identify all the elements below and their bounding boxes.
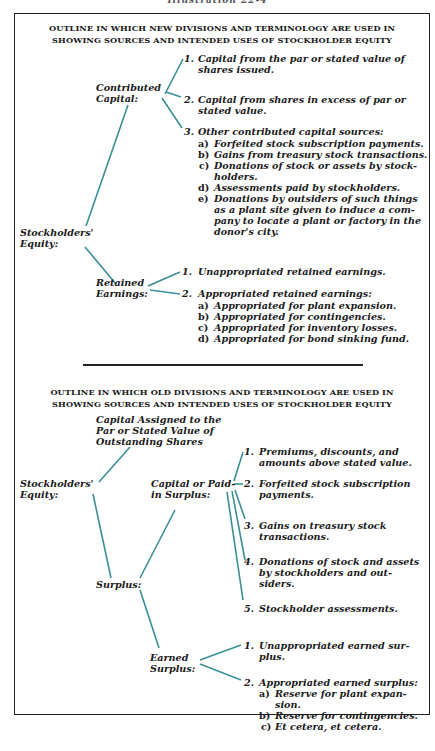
contributed-item3-number: 3. xyxy=(184,126,194,137)
capital-assigned-line2: Par or Stated Value of xyxy=(96,425,221,436)
new-root-line1: Stockholders' xyxy=(20,227,93,238)
contributed-sub-a-letter: a) xyxy=(198,138,209,149)
new-outline-title: OUTLINE IN WHICH NEW DIVISIONS AND TERMI… xyxy=(14,22,430,46)
paid-in-item5: Stockholder assessments. xyxy=(259,603,398,614)
paid-in-surplus-label: Capital or Paid- in Surplus: xyxy=(151,478,235,500)
capital-assigned-line3: Outstanding Shares xyxy=(96,436,221,447)
earned-item1-number: 1. xyxy=(244,640,254,651)
paid-in-item3-line2: transactions. xyxy=(259,531,386,542)
old-root-line2: Equity: xyxy=(20,489,93,500)
earned-sub-a: Reserve for plant expan- sion. xyxy=(275,688,407,710)
paid-in-item2-number: 2. xyxy=(244,478,254,489)
old-root-label: Stockholders' Equity: xyxy=(20,478,93,500)
contributed-sub-c: Donations of stock or assets by stock- h… xyxy=(214,160,417,182)
earned-sub-b-letter: b) xyxy=(259,710,270,721)
contributed-sub-e-letter: e) xyxy=(198,193,209,204)
earned-sub-c-letter: c) xyxy=(261,721,271,732)
paid-in-item3-number: 3. xyxy=(244,520,254,531)
retained-item2-number: 2. xyxy=(182,288,192,299)
contributed-item2-line2: stated value. xyxy=(198,105,406,116)
contributed-sub-c-line2: holders. xyxy=(214,171,417,182)
paid-in-line2: in Surplus: xyxy=(151,489,235,500)
earned-sub-a-line2: sion. xyxy=(275,699,407,710)
retained-item1-number: 1. xyxy=(182,266,192,277)
contributed-item1-line2: shares issued. xyxy=(198,64,405,75)
earned-item1-line2: plus. xyxy=(259,651,410,662)
earned-item2-number: 2. xyxy=(244,677,254,688)
retained-earnings-label: Retained Earnings: xyxy=(96,277,148,299)
retained-sub-b-letter: b) xyxy=(198,311,209,322)
capital-assigned-line1: Capital Assigned to the xyxy=(96,414,221,425)
paid-in-item4-number: 4. xyxy=(244,556,254,567)
contributed-item3: Other contributed capital sources: xyxy=(198,126,384,137)
earned-item1: Unappropriated earned sur- plus. xyxy=(259,640,410,662)
contributed-item1-number: 1. xyxy=(184,53,194,64)
earned-sub-b: Reserve for contingencies. xyxy=(275,710,418,721)
contributed-sub-b-letter: b) xyxy=(198,149,209,160)
retained-sub-a: Appropriated for plant expansion. xyxy=(214,300,396,311)
old-outline-title: OUTLINE IN WHICH OLD DIVISIONS AND TERMI… xyxy=(14,386,430,410)
contributed-line2: Capital: xyxy=(96,93,161,104)
earned-line2: Surplus: xyxy=(150,663,195,674)
contributed-sub-d: Assessments paid by stockholders. xyxy=(214,182,400,193)
paid-in-item1-line2: amounts above stated value. xyxy=(259,457,412,468)
earned-sub-c: Et cetera, et cetera. xyxy=(275,721,381,732)
retained-item1: Unappropriated retained earnings. xyxy=(198,266,386,277)
earned-sub-a-line1: Reserve for plant expan- xyxy=(275,688,407,699)
old-outline-title-line1: OUTLINE IN WHICH OLD DIVISIONS AND TERMI… xyxy=(14,386,430,398)
paid-in-item1: Premiums, discounts, and amounts above s… xyxy=(259,446,412,468)
contributed-sub-c-line1: Donations of stock or assets by stock- xyxy=(214,160,417,171)
section-divider xyxy=(83,364,363,366)
contributed-sub-e-line4: donor's city. xyxy=(214,226,421,237)
retained-sub-d: Appropriated for bond sinking fund. xyxy=(214,333,409,344)
contributed-sub-e: Donations by outsiders of such things as… xyxy=(214,193,421,237)
contributed-sub-a: Forfeited stock subscription payments. xyxy=(214,138,424,149)
paid-in-item1-line1: Premiums, discounts, and xyxy=(259,446,412,457)
paid-in-item4: Donations of stock and assets by stockho… xyxy=(259,556,419,589)
paid-in-item3: Gains on treasury stock transactions. xyxy=(259,520,386,542)
contributed-sub-b: Gains from treasury stock transactions. xyxy=(214,149,427,160)
paid-in-item4-line3: siders. xyxy=(259,578,419,589)
paid-in-line1: Capital or Paid- xyxy=(151,478,235,489)
retained-line2: Earnings: xyxy=(96,288,148,299)
contributed-item2-number: 2. xyxy=(184,94,194,105)
retained-sub-a-letter: a) xyxy=(198,300,209,311)
contributed-item2: Capital from shares in excess of par or … xyxy=(198,94,406,116)
contributed-item1-line1: Capital from the par or stated value of xyxy=(198,53,405,64)
contributed-item1: Capital from the par or stated value of … xyxy=(198,53,405,75)
paid-in-item2: Forfeited stock subscription payments. xyxy=(259,478,410,500)
retained-item2: Appropriated retained earnings: xyxy=(198,288,372,299)
illustration-caption: Illustration 22-4 xyxy=(0,0,435,5)
capital-assigned-label: Capital Assigned to the Par or Stated Va… xyxy=(96,414,221,447)
paid-in-item2-line2: payments. xyxy=(259,489,410,500)
new-outline-title-line2: SHOWING SOURCES AND INTENDED USES OF STO… xyxy=(14,34,430,46)
paid-in-item2-line1: Forfeited stock subscription xyxy=(259,478,410,489)
paid-in-item4-line1: Donations of stock and assets xyxy=(259,556,419,567)
contributed-capital-label: Contributed Capital: xyxy=(96,82,161,104)
retained-line1: Retained xyxy=(96,277,148,288)
old-root-line1: Stockholders' xyxy=(20,478,93,489)
earned-sub-a-letter: a) xyxy=(259,688,270,699)
contributed-item2-line1: Capital from shares in excess of par or xyxy=(198,94,406,105)
new-root-line2: Equity: xyxy=(20,238,93,249)
contributed-sub-e-line2: as a plant site given to induce a com- xyxy=(214,204,421,215)
earned-item2: Appropriated earned surplus: xyxy=(259,677,418,688)
contributed-sub-e-line1: Donations by outsiders of such things xyxy=(214,193,421,204)
earned-surplus-label: Earned Surplus: xyxy=(150,652,195,674)
old-outline-title-line2: SHOWING SOURCES AND INTENDED USES OF STO… xyxy=(14,398,430,410)
contributed-sub-c-letter: c) xyxy=(199,160,209,171)
contributed-sub-d-letter: d) xyxy=(198,182,209,193)
surplus-label: Surplus: xyxy=(96,579,141,590)
paid-in-item4-line2: by stockholders and out- xyxy=(259,567,419,578)
earned-line1: Earned xyxy=(150,652,195,663)
retained-sub-c-letter: c) xyxy=(198,322,208,333)
retained-sub-d-letter: d) xyxy=(198,333,209,344)
earned-item1-line1: Unappropriated earned sur- xyxy=(259,640,410,651)
new-outline-title-line1: OUTLINE IN WHICH NEW DIVISIONS AND TERMI… xyxy=(14,22,430,34)
retained-sub-b: Appropriated for contingencies. xyxy=(214,311,386,322)
retained-sub-c: Appropriated for inventory losses. xyxy=(214,322,397,333)
contributed-sub-e-line3: pany to locate a plant or factory in the xyxy=(214,215,421,226)
new-root-label: Stockholders' Equity: xyxy=(20,227,93,249)
paid-in-item1-number: 1. xyxy=(244,446,254,457)
paid-in-item5-number: 5. xyxy=(244,603,254,614)
